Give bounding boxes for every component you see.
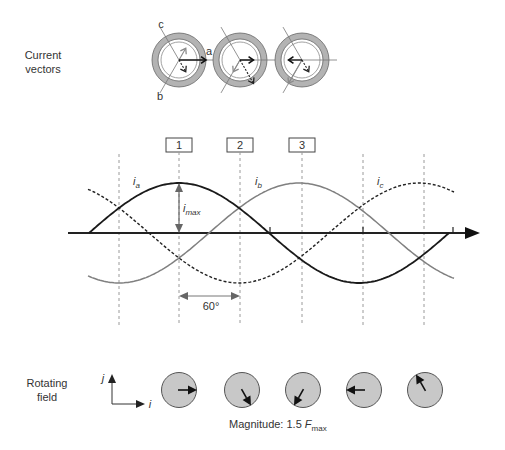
arrow-up-icon: [108, 374, 116, 383]
current-vector-diagram-3: [275, 27, 337, 93]
phase-axis-label-b: b: [157, 90, 163, 102]
i-axis-label: i: [149, 398, 152, 410]
imax-indicator: imax: [175, 183, 202, 233]
arrow-right-icon: [136, 400, 145, 408]
arrow-up-icon: [175, 183, 183, 192]
axis-arrow-icon: [465, 227, 480, 239]
field-disc-4: [346, 373, 382, 408]
instant-label: 1: [176, 139, 182, 151]
rotating-field-label-line1: Rotating: [27, 377, 68, 389]
waveform-label-ia: ia: [133, 175, 140, 190]
phase-axis-label-a: a: [206, 45, 213, 57]
waveform-label-ib: ib: [255, 175, 262, 190]
j-axis-label: j: [100, 372, 105, 384]
current-vectors-label-line2: vectors: [25, 63, 61, 75]
arrow-left-icon: [179, 292, 188, 300]
field-disc-2: [225, 373, 260, 408]
rotating-field-diagram: Current vectors c a b 1 2 3: [0, 0, 505, 450]
angle-spacing-indicator: 60°: [179, 292, 240, 312]
imax-label: imax: [183, 202, 202, 217]
instant-marker-3: 3: [289, 138, 315, 152]
arrow-down-icon: [175, 224, 183, 233]
waveform-label-ic: ic: [377, 175, 383, 190]
current-vectors-label-line1: Current: [25, 49, 62, 61]
instant-label: 3: [299, 139, 305, 151]
arrow-right-icon: [231, 292, 240, 300]
instant-label: 2: [237, 139, 243, 151]
field-disc-5: [408, 373, 443, 408]
angle-label: 60°: [203, 300, 220, 312]
magnitude-label: Magnitude: 1.5 Fmax: [229, 418, 327, 433]
field-disc-3: [286, 373, 321, 408]
phase-axis-label-c: c: [158, 18, 164, 30]
reference-axes: j i: [100, 372, 152, 410]
field-disc-1: [162, 373, 198, 408]
instant-marker-2: 2: [227, 138, 253, 152]
instant-marker-1: 1: [166, 138, 192, 152]
current-vector-diagram-1: [152, 27, 214, 93]
current-vector-diagram-2: [213, 27, 275, 93]
rotating-field-label-line2: field: [37, 391, 57, 403]
